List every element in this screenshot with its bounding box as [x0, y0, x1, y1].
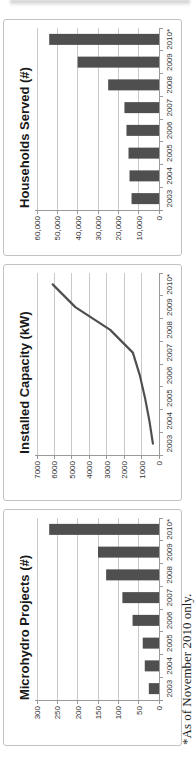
x-tick-label: 2006: [165, 366, 174, 384]
y-tick-label: 20,000: [114, 215, 123, 240]
bar: [49, 34, 159, 45]
y-tick-label: 50: [135, 705, 144, 714]
x-tick-label: 2005: [165, 389, 174, 407]
y-tick-label: 60,000: [33, 215, 42, 240]
bar: [108, 79, 159, 90]
y-tick-label: 250: [53, 705, 62, 719]
x-tick-label: 2007: [165, 588, 174, 606]
rotated-figure: 0501001502002503002003200420052006200720…: [0, 0, 196, 758]
x-tick-label: 2009: [165, 53, 174, 71]
x-tick-label: 2008: [165, 320, 174, 338]
x-tick-label: 2003: [165, 434, 174, 452]
chart-title-installed-capacity: Installed Capacity (kW): [17, 265, 32, 500]
x-tick-label: 2004: [165, 166, 174, 184]
chart-title-households-served: Households Served (#): [17, 20, 32, 255]
x-tick-label: 2003: [165, 679, 174, 697]
y-tick-label: 0: [155, 705, 164, 710]
x-tick-label: 2005: [165, 144, 174, 162]
bar: [124, 102, 159, 113]
x-tick-label: 2005: [165, 634, 174, 652]
figure-footnote: *As of November 2010 only.: [179, 594, 195, 745]
y-tick-label: 100: [114, 705, 123, 719]
data-line: [53, 284, 153, 443]
x-tick-label: 2007: [165, 343, 174, 361]
x-tick-label: 2008: [165, 75, 174, 93]
x-tick-label: 2007: [165, 98, 174, 116]
y-tick-label: 0: [155, 215, 164, 220]
x-tick-label: 2010*: [165, 29, 174, 50]
y-tick-label: 300: [33, 705, 42, 719]
x-tick-label: 2008: [165, 565, 174, 583]
bar: [126, 125, 159, 136]
x-tick-label: 2004: [165, 656, 174, 674]
x-tick-label: 2006: [165, 121, 174, 139]
y-tick-label: 6000: [50, 460, 59, 478]
y-tick-label: 3000: [103, 460, 112, 478]
y-tick-label: 2000: [120, 460, 129, 478]
x-tick-label: 2010*: [165, 274, 174, 295]
chart-panel-microhydro-projects: 0501001502002503002003200420052006200720…: [3, 509, 182, 746]
x-tick-label: 2009: [165, 543, 174, 561]
x-tick-label: 2006: [165, 611, 174, 629]
y-tick-label: 200: [74, 705, 83, 719]
y-tick-label: 7000: [33, 460, 42, 478]
scan-edge-smudge: [10, 0, 190, 6]
bar: [98, 547, 159, 558]
chart-title-microhydro-projects: Microhydro Projects (#): [17, 510, 32, 745]
bar: [78, 57, 159, 68]
bar: [149, 683, 159, 694]
bar: [133, 615, 159, 626]
x-tick-label: 2010*: [165, 519, 174, 540]
y-tick-label: 1000: [138, 460, 147, 478]
y-tick-label: 10,000: [135, 215, 144, 240]
y-tick-label: 4000: [85, 460, 94, 478]
y-tick-label: 0: [155, 460, 164, 465]
bar: [106, 569, 159, 580]
x-tick-label: 2004: [165, 411, 174, 429]
bar: [132, 193, 159, 204]
y-tick-label: 50,000: [53, 215, 62, 240]
y-tick-label: 5000: [68, 460, 77, 478]
bar: [49, 524, 159, 535]
bar: [130, 170, 159, 181]
chart-panel-installed-capacity: 0100020003000400050006000700020032004200…: [3, 264, 182, 501]
bar: [143, 638, 159, 649]
bar: [129, 148, 160, 159]
y-tick-label: 30,000: [94, 215, 103, 240]
chart-panel-households-served: 010,00020,00030,00040,00050,00060,000200…: [3, 19, 182, 256]
x-tick-label: 2009: [165, 298, 174, 316]
y-tick-label: 40,000: [74, 215, 83, 240]
bar: [145, 660, 159, 671]
y-tick-label: 150: [94, 705, 103, 719]
x-tick-label: 2003: [165, 189, 174, 207]
bar: [122, 592, 159, 603]
